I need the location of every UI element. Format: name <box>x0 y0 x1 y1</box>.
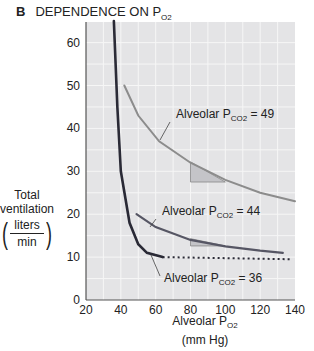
series-label: Alveolar PCO2 = 36 <box>164 271 263 287</box>
y-tick: 50 <box>67 79 81 93</box>
series-label: Alveolar PCO2 = 49 <box>176 107 275 123</box>
chart-plot: 010203040506020406080100120140Alveolar P… <box>0 0 314 351</box>
x-tick: 140 <box>285 303 305 317</box>
y-tick: 40 <box>67 121 81 135</box>
y-tick: 10 <box>67 250 81 264</box>
series-label: Alveolar PCO2 = 44 <box>162 204 261 220</box>
x-axis-label: Alveolar PO2 (mm Hg) <box>150 314 260 348</box>
y-tick: 30 <box>67 164 81 178</box>
x-tick: 20 <box>79 303 93 317</box>
y-tick: 20 <box>67 207 81 221</box>
y-axis-label: Total ventilation ( litersmin ) <box>0 188 54 249</box>
y-tick: 60 <box>67 36 81 50</box>
x-tick: 40 <box>114 303 128 317</box>
